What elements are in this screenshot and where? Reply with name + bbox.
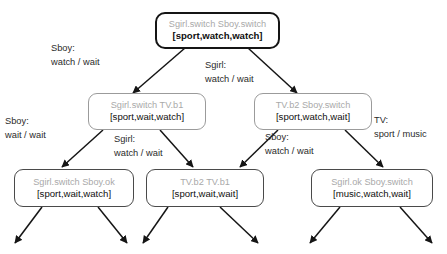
- node-mid-right-state: TV.b2 Sboy.switch: [276, 100, 351, 111]
- edge-mid-left-to-leaf-left: [62, 130, 103, 167]
- node-leaf-left-state: Sgirl.switch Sboy.ok: [33, 177, 115, 188]
- edge-leaf-middle-stub-b: [220, 207, 258, 243]
- edge-label-root-to-mid-left: Sboy: watch / wait: [51, 42, 100, 69]
- node-leaf-left-values: [sport,wait,watch]: [37, 188, 111, 200]
- node-root[interactable]: Sgirl.switch Sboy.switch [sport,watch,wa…: [155, 12, 280, 49]
- node-leaf-right[interactable]: Sgirl.ok Sboy.switch [music,watch,wait]: [311, 169, 433, 207]
- node-root-state: Sgirl.switch Sboy.switch: [169, 19, 266, 30]
- node-root-values: [sport,watch,watch]: [172, 30, 262, 42]
- node-mid-left-values: [sport,wait,watch]: [110, 111, 184, 123]
- node-mid-left[interactable]: Sgirl.switch TV.b1 [sport,wait,watch]: [88, 93, 206, 130]
- edge-label-actor: TV:: [374, 115, 388, 125]
- edge-leaf-right-stub-a: [310, 207, 340, 243]
- edge-leaf-left-stub-b: [98, 207, 127, 243]
- node-mid-left-state: Sgirl.switch TV.b1: [111, 100, 184, 111]
- node-leaf-right-values: [music,watch,wait]: [333, 188, 411, 200]
- edge-label-transition: wait / wait: [5, 129, 46, 143]
- edge-leaf-right-stub-b: [400, 207, 432, 243]
- edge-label-actor: Sboy:: [51, 43, 75, 53]
- edge-label-mid-right-to-leaf-right: TV: sport / music: [374, 114, 427, 141]
- edge-mid-left-to-leaf-middle: [160, 130, 193, 167]
- node-leaf-middle-values: [sport,wait,wait]: [172, 188, 238, 200]
- edge-label-mid-left-to-leaf-middle: Sgirl: watch / wait: [114, 133, 163, 160]
- node-leaf-right-state: Sgirl.ok Sboy.switch: [331, 177, 413, 188]
- edge-leaf-left-stub-a: [15, 207, 42, 243]
- edge-label-transition: watch / wait: [205, 73, 254, 87]
- diagram-canvas: Sgirl.switch Sboy.switch [sport,watch,wa…: [0, 0, 447, 254]
- edge-label-mid-left-to-leaf-left: Sboy: wait / wait: [5, 115, 46, 142]
- edge-root-to-mid-left: [133, 48, 185, 93]
- edge-label-transition: watch / wait: [265, 145, 314, 159]
- edge-label-transition: watch / wait: [51, 56, 100, 70]
- edge-label-mid-right-to-leaf-middle: Sboy: watch / wait: [265, 131, 314, 158]
- edge-label-transition: watch / wait: [114, 147, 163, 161]
- edge-label-actor: Sgirl:: [205, 60, 226, 70]
- node-leaf-left[interactable]: Sgirl.switch Sboy.ok [sport,wait,watch]: [14, 169, 134, 207]
- edge-label-transition: sport / music: [374, 128, 427, 142]
- node-mid-right-values: [sport,watch,wait]: [276, 111, 350, 123]
- edge-label-actor: Sboy:: [265, 132, 289, 142]
- edge-label-root-to-mid-right: Sgirl: watch / wait: [205, 59, 254, 86]
- edge-label-actor: Sgirl:: [114, 134, 135, 144]
- edge-root-to-mid-right: [248, 48, 297, 93]
- node-leaf-middle[interactable]: TV.b2 TV.b1 [sport,wait,wait]: [146, 169, 264, 207]
- edge-label-actor: Sboy:: [5, 116, 29, 126]
- edge-leaf-middle-stub-a: [143, 207, 168, 243]
- node-leaf-middle-state: TV.b2 TV.b1: [180, 177, 230, 188]
- node-mid-right[interactable]: TV.b2 Sboy.switch [sport,watch,wait]: [254, 93, 372, 130]
